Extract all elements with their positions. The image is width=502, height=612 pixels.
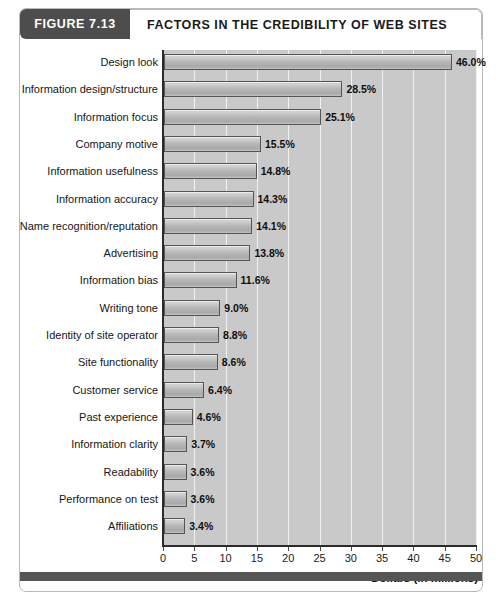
category-label: Information bias: [80, 274, 158, 286]
x-tick-label: 0: [160, 552, 166, 564]
bar-row: Customer service6.4%: [20, 380, 482, 400]
bar: [164, 163, 257, 179]
bar: [164, 81, 342, 97]
x-tick-mark: [351, 547, 352, 551]
bar-row: Readability3.6%: [20, 462, 482, 482]
bar: [164, 300, 220, 316]
category-label: Affiliations: [108, 520, 158, 532]
x-tick-mark: [288, 547, 289, 551]
bar-row: Advertising13.8%: [20, 243, 482, 263]
bar: [164, 382, 204, 398]
category-label: Performance on test: [59, 493, 158, 505]
bar: [164, 409, 193, 425]
bar-value-label: 25.1%: [325, 111, 355, 123]
bar-value-label: 14.8%: [261, 165, 291, 177]
x-tick-label: 30: [345, 552, 357, 564]
bar: [164, 518, 185, 534]
figure-header: FIGURE 7.13 FACTORS IN THE CREDIBILITY O…: [20, 9, 482, 39]
bar: [164, 109, 321, 125]
x-tick-mark: [476, 547, 477, 551]
bar: [164, 245, 250, 261]
category-label: Design look: [101, 56, 158, 68]
bar-row: Past experience4.6%: [20, 407, 482, 427]
bar-value-label: 28.5%: [346, 83, 376, 95]
x-tick-label: 25: [313, 552, 325, 564]
bar-value-label: 11.6%: [241, 274, 270, 286]
bar-value-label: 46.0%: [456, 56, 486, 68]
bar: [164, 436, 187, 452]
category-label: Readability: [104, 466, 158, 478]
bar-value-label: 8.6%: [222, 356, 246, 368]
bar-row: Affiliations3.4%: [20, 516, 482, 536]
bar-value-label: 3.7%: [191, 438, 215, 450]
figure-screenshot: FIGURE 7.13 FACTORS IN THE CREDIBILITY O…: [0, 0, 502, 612]
bar-row: Information focus25.1%: [20, 107, 482, 127]
category-label: Customer service: [72, 384, 158, 396]
category-label: Information usefulness: [47, 165, 158, 177]
figure-title: FACTORS IN THE CREDIBILITY OF WEB SITES: [130, 9, 482, 39]
x-tick-mark: [257, 547, 258, 551]
category-label: Information design/structure: [22, 83, 158, 95]
chart-area: 05101520253035404550 Design look46.0%Inf…: [20, 44, 482, 564]
bar: [164, 327, 219, 343]
x-tick-label: 35: [376, 552, 388, 564]
bar-value-label: 9.0%: [224, 302, 248, 314]
category-label: Name recognition/reputation: [20, 220, 158, 232]
x-tick-mark: [382, 547, 383, 551]
category-label: Identity of site operator: [46, 329, 158, 341]
x-tick-label: 20: [282, 552, 294, 564]
bar-value-label: 15.5%: [265, 138, 295, 150]
bar-row: Information clarity3.7%: [20, 434, 482, 454]
x-tick-mark: [226, 547, 227, 551]
category-label: Information focus: [74, 111, 158, 123]
bar: [164, 191, 254, 207]
bar-row: Site functionality8.6%: [20, 352, 482, 372]
bar-row: Writing tone9.0%: [20, 298, 482, 318]
bar: [164, 272, 237, 288]
bar-value-label: 6.4%: [208, 384, 232, 396]
bar-row: Information design/structure28.5%: [20, 79, 482, 99]
category-label: Past experience: [79, 411, 158, 423]
x-tick-mark: [445, 547, 446, 551]
category-label: Company motive: [75, 138, 158, 150]
x-tick-label: 40: [407, 552, 419, 564]
bar-value-label: 3.4%: [189, 520, 213, 532]
footer-band: [20, 572, 482, 581]
bar-row: Name recognition/reputation14.1%: [20, 216, 482, 236]
x-tick-label: 10: [219, 552, 231, 564]
x-tick-label: 45: [439, 552, 451, 564]
x-tick-mark: [163, 547, 164, 551]
bar-value-label: 8.8%: [223, 329, 247, 341]
bar-row: Company motive15.5%: [20, 134, 482, 154]
figure-number-block: FIGURE 7.13: [20, 9, 130, 39]
x-tick-label: 15: [251, 552, 263, 564]
bar-value-label: 3.6%: [191, 466, 215, 478]
bar: [164, 354, 218, 370]
bar-row: Information usefulness14.8%: [20, 161, 482, 181]
bar: [164, 464, 187, 480]
bar-value-label: 3.6%: [191, 493, 215, 505]
bar-row: Design look46.0%: [20, 52, 482, 72]
bar-row: Identity of site operator8.8%: [20, 325, 482, 345]
bar-row: Information accuracy14.3%: [20, 189, 482, 209]
category-label: Information clarity: [71, 438, 158, 450]
category-label: Site functionality: [78, 356, 158, 368]
bar-row: Information bias11.6%: [20, 270, 482, 290]
x-tick-mark: [413, 547, 414, 551]
bar: [164, 491, 187, 507]
bar-row: Performance on test3.6%: [20, 489, 482, 509]
bar-value-label: 13.8%: [254, 247, 284, 259]
x-tick-label: 5: [191, 552, 197, 564]
bar-value-label: 14.3%: [258, 193, 288, 205]
x-tick-mark: [194, 547, 195, 551]
category-label: Information accuracy: [56, 193, 158, 205]
category-label: Advertising: [104, 247, 158, 259]
x-tick-mark: [320, 547, 321, 551]
category-label: Writing tone: [100, 302, 159, 314]
bar: [164, 136, 261, 152]
bar: [164, 54, 452, 70]
bar: [164, 218, 252, 234]
bar-value-label: 14.1%: [256, 220, 286, 232]
x-tick-label: 50: [470, 552, 482, 564]
bar-value-label: 4.6%: [197, 411, 221, 423]
